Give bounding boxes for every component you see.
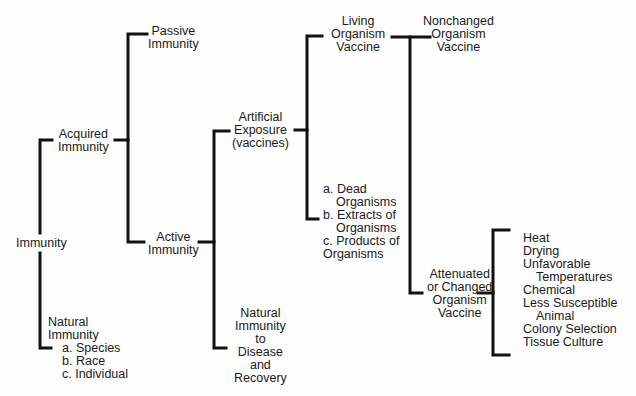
list-item: Organisms <box>323 248 399 261</box>
label-line: Vaccine <box>423 41 494 54</box>
node-attenuated-organism-vaccine: Attenuated or Changed Organism Vaccine <box>427 268 492 320</box>
node-dead-organisms: a. Dead Organisms b. Extracts of Organis… <box>323 183 399 261</box>
list-item: c. Individual <box>48 368 128 381</box>
label-line: Immunity <box>148 38 199 51</box>
label-line: (vaccines) <box>232 137 289 150</box>
label-line: Recovery <box>234 372 287 385</box>
label-line: Vaccine <box>331 41 385 54</box>
node-passive-immunity: Passive Immunity <box>148 25 199 51</box>
node-attenuation-methods: Heat Drying Unfavorable Temperatures Che… <box>523 232 618 349</box>
label-line: Immunity <box>148 244 199 257</box>
node-active-immunity: Active Immunity <box>148 231 199 257</box>
label: Immunity <box>16 237 67 250</box>
node-nonchanged-organism-vaccine: Nonchanged Organism Vaccine <box>423 15 494 54</box>
node-artificial-exposure: Artificial Exposure (vaccines) <box>232 111 289 150</box>
label-line: Vaccine <box>427 307 492 320</box>
node-natural-immunity-disease: Natural Immunity to Disease and Recovery <box>234 307 287 385</box>
label-line: Immunity <box>58 141 109 154</box>
list-item: Tissue Culture <box>523 336 618 349</box>
node-natural-immunity: Natural Immunity a. Species b. Race c. I… <box>48 316 128 381</box>
node-acquired-immunity: Acquired Immunity <box>58 128 109 154</box>
node-living-organism-vaccine: Living Organism Vaccine <box>331 15 385 54</box>
node-immunity: Immunity <box>16 237 67 250</box>
